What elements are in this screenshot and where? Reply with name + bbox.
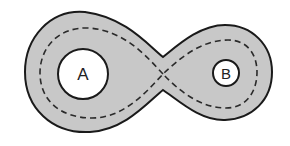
hole-b: B bbox=[213, 60, 239, 86]
hole-a-label: A bbox=[77, 65, 89, 84]
hole-a: A bbox=[58, 49, 108, 99]
hole-b-label: B bbox=[221, 65, 231, 82]
figure-eight-diagram: A B bbox=[0, 0, 290, 146]
